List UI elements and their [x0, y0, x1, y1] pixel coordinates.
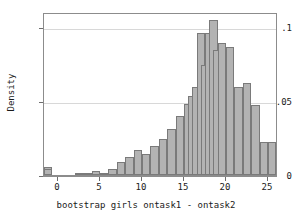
histogram-bar	[251, 105, 259, 175]
histogram-bar	[83, 173, 91, 175]
histogram-bar	[125, 157, 133, 175]
histogram-bar	[276, 158, 277, 175]
histogram-bar	[243, 83, 251, 175]
y-axis-title: Density	[7, 58, 16, 128]
x-tick-label-20: 20	[210, 183, 240, 192]
histogram-bar	[92, 171, 100, 175]
x-tick-label-0: 0	[42, 183, 72, 192]
x-axis-title: bootstrap girls ontask1 - ontask2	[0, 200, 292, 210]
histogram-bar	[100, 173, 108, 175]
histogram-bar	[75, 173, 83, 175]
histogram-bar	[218, 43, 226, 175]
histogram-bar	[268, 142, 276, 175]
x-tick-mark-15	[183, 177, 184, 181]
histogram-bar	[176, 116, 184, 175]
x-tick-mark-10	[141, 177, 142, 181]
x-tick-label-10: 10	[126, 183, 156, 192]
x-tick-label-15: 15	[168, 183, 198, 192]
histogram-bar	[108, 169, 116, 175]
histogram-bar	[142, 154, 150, 175]
histogram-bar	[260, 142, 268, 175]
plot-area	[43, 13, 277, 176]
x-tick-mark-0	[57, 177, 58, 181]
histogram-figure: Density 0 .05 .1 0 5 10 15 20 25 bootstr…	[0, 0, 292, 221]
histogram-bar	[44, 169, 52, 175]
histogram-bar	[234, 87, 242, 175]
histogram-bar	[117, 162, 125, 175]
histogram-bar	[134, 150, 142, 175]
histogram-bar	[226, 47, 234, 175]
x-axis-line	[43, 176, 277, 177]
histogram-bar	[159, 139, 167, 175]
histogram-bar	[150, 146, 158, 175]
x-tick-label-5: 5	[84, 183, 114, 192]
x-tick-mark-5	[99, 177, 100, 181]
histogram-bar	[167, 129, 175, 175]
x-tick-label-25: 25	[252, 183, 282, 192]
x-tick-mark-20	[225, 177, 226, 181]
x-tick-mark-25	[267, 177, 268, 181]
histogram-bars	[44, 14, 276, 175]
